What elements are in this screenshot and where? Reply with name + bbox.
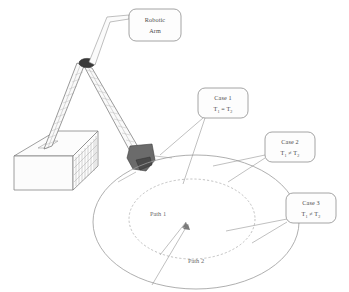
case-2-leaders: [213, 155, 265, 182]
callout-case-3-box[interactable]: [286, 193, 336, 223]
callout-robotic-arm-line2: Arm: [149, 27, 161, 34]
case-3-rhs-sub: 2: [318, 214, 320, 219]
callout-case-1[interactable]: Case 1 T1 = T2: [198, 88, 248, 118]
robotic-arm-leader: [89, 15, 129, 65]
end-effector: [118, 144, 172, 182]
effector-contact-line: [118, 172, 136, 182]
callout-case-3-title: Case 3: [302, 199, 319, 206]
case-1-leaders: [160, 118, 205, 184]
path-1-leader: [160, 222, 188, 255]
callout-case-2-box[interactable]: [265, 132, 315, 162]
base-front-face: [14, 156, 73, 190]
callout-case-1-box[interactable]: [198, 88, 248, 118]
diagram-canvas: Path 1 Path 2 Robotic Arm Case 1 T1 = T2…: [0, 0, 349, 292]
robotic-arm-leader-wedge: [89, 15, 129, 65]
inner-workspace-ellipse: [129, 179, 255, 259]
path-2-label: Path 2: [188, 257, 204, 264]
outer-workspace-ellipse: [93, 155, 299, 289]
callout-robotic-arm[interactable]: Robotic Arm: [129, 9, 181, 41]
base-block: [14, 131, 98, 190]
callout-case-2-title: Case 2: [281, 138, 298, 145]
callout-case-2[interactable]: Case 2 T1 ≠ T2: [265, 132, 315, 162]
case-2-rhs-sub: 2: [297, 153, 299, 158]
callout-case-3[interactable]: Case 3 T1 ≠ T2: [286, 193, 336, 223]
robotic-arm-workspace-figure: Path 1 Path 2 Robotic Arm Case 1 T1 = T2…: [0, 0, 349, 292]
callout-case-1-title: Case 1: [214, 94, 231, 101]
path-1-label: Path 1: [150, 210, 166, 217]
callout-robotic-arm-line1: Robotic: [145, 16, 165, 23]
case-1-rhs-sub: 2: [230, 109, 232, 114]
case-3-leaders: [226, 219, 287, 243]
path-2-leader: [152, 224, 190, 285]
callout-robotic-arm-box[interactable]: [129, 9, 181, 41]
